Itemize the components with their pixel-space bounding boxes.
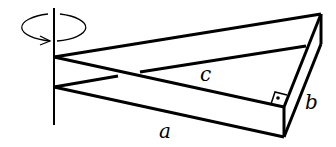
- label-a: a: [159, 119, 171, 143]
- triangle-frame: [54, 14, 321, 137]
- label-c: c: [200, 62, 211, 86]
- triangle-frame-diagram: c a b: [0, 0, 336, 147]
- label-b: b: [305, 90, 318, 114]
